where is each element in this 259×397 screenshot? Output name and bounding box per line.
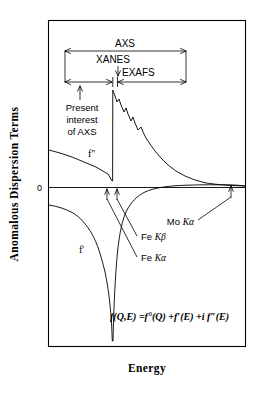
- edge-label-mo-kalpha: Mo Kα: [167, 216, 195, 227]
- formula-text: f(Q,E) =f°(Q) +f′(E) +i f″(E): [110, 311, 229, 323]
- y-axis-zero-tick-label: 0: [37, 183, 42, 193]
- leader-fe-kbeta: [117, 199, 137, 236]
- span-arrow-xanes-exafs: [65, 77, 186, 87]
- exafs-down-arrow-icon: [116, 66, 121, 76]
- edge-label-fe-kbeta: Fe Kβ: [141, 231, 166, 242]
- y-axis-title: Anomalous Dispersion Terms: [8, 106, 21, 261]
- span-label-xanes: XANES: [96, 54, 130, 65]
- edge-label-fe-kalpha: Fe Kα: [141, 252, 167, 263]
- curve-label-f-prime: f': [79, 244, 84, 255]
- edge-marker-fe-kbeta-arrow-icon: [115, 189, 119, 200]
- span-label-axs: AXS: [115, 38, 135, 49]
- present-interest-line-2: interest: [66, 114, 98, 125]
- leader-mo-kalpha: [198, 197, 231, 220]
- x-axis-title: Energy: [128, 362, 166, 375]
- curve-label-f-double-prime: f": [88, 148, 95, 159]
- figure-canvas: Anomalous Dispersion Terms 0 AXS XANES: [0, 0, 259, 397]
- present-interest-up-arrow-icon: [78, 86, 83, 100]
- span-label-exafs: EXAFS: [122, 67, 155, 78]
- present-interest-line-3: of AXS: [67, 126, 96, 137]
- anomalous-dispersion-figure: Anomalous Dispersion Terms 0 AXS XANES: [0, 0, 259, 397]
- edge-marker-fe-kalpha-arrow-icon: [105, 189, 109, 200]
- present-interest-line-1: Present: [66, 102, 99, 113]
